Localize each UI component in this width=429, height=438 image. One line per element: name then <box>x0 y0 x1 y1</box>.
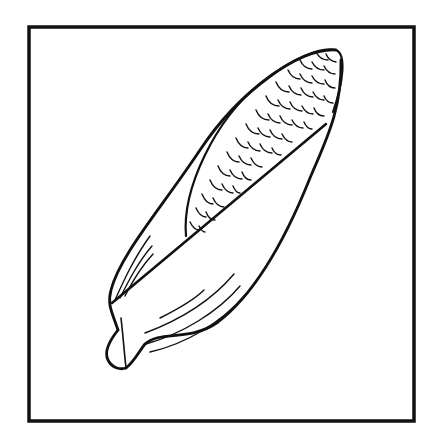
picture-frame <box>29 27 414 421</box>
corn-cob <box>186 49 343 236</box>
corn-husk <box>107 50 341 369</box>
corn-illustration <box>0 0 429 438</box>
